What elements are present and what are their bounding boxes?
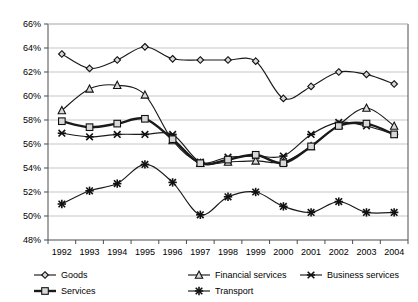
series-services xyxy=(59,116,398,167)
marker-star xyxy=(362,208,370,216)
marker-square xyxy=(363,120,370,127)
legend-item-goods[interactable]: Goods xyxy=(34,270,88,280)
x-axis-label: 1996 xyxy=(163,247,183,257)
y-axis-label: 56% xyxy=(23,139,41,149)
legend-label: Transport xyxy=(215,286,254,296)
y-axis-label: 66% xyxy=(23,19,41,29)
y-axis-label: 54% xyxy=(23,163,41,173)
marker-star xyxy=(196,211,204,219)
marker-square xyxy=(114,120,121,127)
legend-item-financial-services[interactable]: Financial services xyxy=(188,270,287,280)
marker-diamond xyxy=(42,272,49,279)
marker-star xyxy=(58,200,66,208)
marker-diamond xyxy=(197,57,204,64)
legend-label: Services xyxy=(61,286,96,296)
series-transport xyxy=(58,160,399,219)
x-axis-label: 2003 xyxy=(356,247,376,257)
marker-triangle xyxy=(390,122,397,129)
y-axis-label: 62% xyxy=(23,67,41,77)
marker-diamond xyxy=(308,83,315,90)
marker-x xyxy=(307,272,315,279)
marker-diamond xyxy=(169,56,176,63)
marker-x xyxy=(85,134,93,141)
marker-square xyxy=(169,136,176,143)
chart-canvas: 66%64%62%60%58%56%54%52%50%48%1992199319… xyxy=(0,0,418,302)
marker-square xyxy=(335,123,342,130)
y-axis-label: 48% xyxy=(23,235,41,245)
x-axis-label: 1999 xyxy=(246,247,266,257)
series-line xyxy=(62,47,394,99)
marker-square xyxy=(86,124,93,131)
marker-diamond xyxy=(59,51,66,58)
marker-square xyxy=(59,118,66,125)
y-axis-label: 58% xyxy=(23,115,41,125)
series-goods xyxy=(59,44,398,102)
legend-item-transport[interactable]: Transport xyxy=(188,286,254,296)
legend-label: Goods xyxy=(61,270,88,280)
x-axis-labels: 1992199319941995199619971998199920002001… xyxy=(48,240,408,257)
gridlines: 66%64%62%60%58%56%54%52%50%48% xyxy=(23,19,408,245)
legend-item-business-services[interactable]: Business services xyxy=(300,270,400,280)
series-line xyxy=(62,164,394,215)
marker-diamond xyxy=(114,57,121,64)
y-axis-label: 64% xyxy=(23,43,41,53)
x-axis-label: 1993 xyxy=(80,247,100,257)
marker-star xyxy=(168,178,176,186)
x-axis-label: 1997 xyxy=(190,247,210,257)
y-axis-label: 60% xyxy=(23,91,41,101)
marker-triangle xyxy=(86,85,93,92)
x-axis-label: 1998 xyxy=(218,247,238,257)
marker-star xyxy=(279,202,287,210)
marker-x xyxy=(113,131,121,138)
marker-square xyxy=(391,131,398,138)
x-axis-label: 1994 xyxy=(107,247,127,257)
x-axis-label: 1995 xyxy=(135,247,155,257)
marker-square xyxy=(225,156,232,163)
marker-square xyxy=(42,288,49,295)
legend-item-services[interactable]: Services xyxy=(34,286,96,296)
marker-diamond xyxy=(335,69,342,76)
legend-label: Financial services xyxy=(215,270,287,280)
marker-star xyxy=(224,193,232,201)
marker-star xyxy=(335,197,343,205)
x-axis-label: 2001 xyxy=(301,247,321,257)
marker-x xyxy=(141,131,149,138)
marker-star xyxy=(85,187,93,195)
marker-square xyxy=(252,152,259,159)
marker-diamond xyxy=(225,57,232,64)
marker-star xyxy=(251,188,259,196)
x-axis-label: 2002 xyxy=(329,247,349,257)
x-axis-label: 2004 xyxy=(384,247,404,257)
marker-diamond xyxy=(391,81,398,88)
line-chart: 66%64%62%60%58%56%54%52%50%48%1992199319… xyxy=(0,0,418,302)
marker-diamond xyxy=(142,44,149,51)
marker-square xyxy=(280,160,287,167)
marker-star xyxy=(141,160,149,168)
marker-diamond xyxy=(86,65,93,72)
marker-star xyxy=(195,287,203,295)
y-axis-label: 52% xyxy=(23,187,41,197)
marker-square xyxy=(197,160,204,167)
marker-x xyxy=(307,131,315,138)
x-axis-label: 1992 xyxy=(52,247,72,257)
x-axis-label: 2000 xyxy=(273,247,293,257)
marker-star xyxy=(307,208,315,216)
marker-square xyxy=(142,116,149,123)
marker-star xyxy=(390,208,398,216)
y-axis-label: 50% xyxy=(23,211,41,221)
marker-x xyxy=(58,130,66,137)
legend-label: Business services xyxy=(327,270,400,280)
marker-square xyxy=(308,143,315,150)
legend: GoodsFinancial servicesBusiness services… xyxy=(34,270,400,296)
marker-star xyxy=(113,179,121,187)
